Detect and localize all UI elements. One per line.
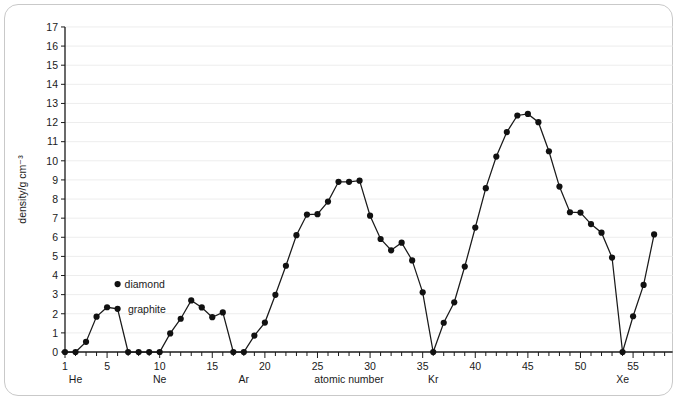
- svg-text:45: 45: [522, 360, 534, 372]
- svg-text:16: 16: [46, 40, 58, 52]
- svg-text:55: 55: [627, 360, 639, 372]
- x-axis-tick-labels: 1510152025303540455055: [62, 360, 639, 372]
- svg-text:15: 15: [206, 360, 218, 372]
- legend-label-diamond: diamond: [125, 278, 165, 290]
- svg-text:Xe: Xe: [616, 373, 629, 385]
- svg-text:3: 3: [52, 288, 58, 300]
- svg-text:1: 1: [52, 327, 58, 339]
- svg-text:6: 6: [52, 231, 58, 243]
- svg-text:He: He: [69, 373, 83, 385]
- svg-text:5: 5: [52, 250, 58, 262]
- legend-label-graphite: graphite: [128, 303, 166, 315]
- svg-text:Ar: Ar: [239, 373, 250, 385]
- y-axis-title: density/g cm⁻³: [16, 155, 28, 224]
- svg-text:4: 4: [52, 269, 58, 281]
- y-axis-tick-labels: 01234567891011121314151617: [46, 21, 58, 358]
- svg-text:14: 14: [46, 78, 58, 90]
- x-axis-ticks-group: [65, 352, 665, 358]
- svg-text:15: 15: [46, 59, 58, 71]
- svg-text:10: 10: [154, 360, 166, 372]
- svg-text:12: 12: [46, 116, 58, 128]
- x-axis-title: atomic number: [314, 373, 384, 385]
- svg-text:40: 40: [469, 360, 481, 372]
- legend-diamond-marker-icon: [115, 281, 121, 287]
- svg-text:13: 13: [46, 97, 58, 109]
- svg-text:30: 30: [364, 360, 376, 372]
- chart-plot-area: 01234567891011121314151617 1510152025303…: [0, 0, 681, 404]
- legend: diamond graphite: [115, 278, 167, 315]
- chart-page: 01234567891011121314151617 1510152025303…: [0, 0, 681, 404]
- svg-text:9: 9: [52, 174, 58, 186]
- density-series-points: [62, 111, 657, 355]
- svg-text:11: 11: [47, 135, 58, 147]
- svg-text:Kr: Kr: [428, 373, 439, 385]
- svg-text:35: 35: [417, 360, 429, 372]
- svg-text:8: 8: [52, 193, 58, 205]
- svg-text:50: 50: [575, 360, 587, 372]
- svg-text:25: 25: [312, 360, 324, 372]
- svg-text:Ne: Ne: [153, 373, 167, 385]
- svg-text:17: 17: [46, 21, 58, 33]
- svg-text:1: 1: [62, 360, 68, 372]
- svg-text:10: 10: [46, 155, 58, 167]
- svg-text:5: 5: [104, 360, 110, 372]
- density-series-line: [65, 114, 654, 352]
- svg-text:2: 2: [52, 308, 58, 320]
- svg-text:0: 0: [52, 346, 58, 358]
- svg-text:20: 20: [259, 360, 271, 372]
- svg-text:7: 7: [52, 212, 58, 224]
- density-vs-atomic-number-chart: 01234567891011121314151617 1510152025303…: [0, 0, 681, 404]
